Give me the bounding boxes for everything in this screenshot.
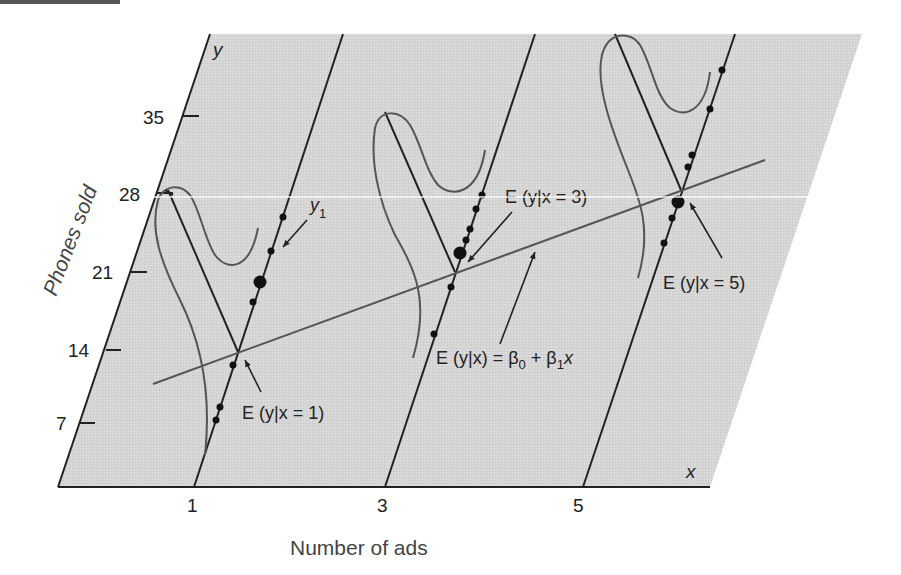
data-point — [448, 284, 455, 291]
y-tick-label-21: 21 — [92, 262, 113, 283]
y-tick-label-28: 28 — [119, 184, 140, 205]
data-point — [230, 362, 237, 369]
data-point — [250, 299, 257, 306]
x-tick-label-3: 3 — [377, 495, 388, 516]
x-tick-label-1: 1 — [187, 495, 198, 516]
data-point — [268, 248, 275, 255]
data-point — [707, 106, 714, 113]
label-ex1: E (y|x = 1) — [242, 403, 324, 423]
y-tick-label-14: 14 — [68, 340, 90, 361]
data-point — [467, 226, 474, 233]
data-point — [685, 164, 692, 171]
mean-point-x1-large — [254, 276, 267, 289]
data-point — [719, 67, 726, 74]
data-point — [431, 331, 438, 338]
y-tick-label-35: 35 — [143, 107, 164, 128]
data-point — [689, 152, 696, 159]
x-tick-label-5: 5 — [573, 495, 584, 516]
label-ex5: E (y|x = 5) — [663, 273, 745, 293]
data-point — [463, 237, 470, 244]
data-point-y1 — [280, 214, 287, 221]
y-tick-label-7: 7 — [56, 413, 67, 434]
data-point — [217, 404, 224, 411]
data-point — [661, 240, 668, 247]
mean-point-x3-large — [454, 247, 467, 260]
x-axis-title: Number of ads — [290, 536, 428, 559]
data-point — [473, 206, 480, 213]
x-axis-letter: x — [685, 461, 697, 482]
y-axis-letter: y — [211, 39, 224, 60]
data-point — [669, 215, 676, 222]
regression-diagram: 7 14 21 28 35 1 3 5 y x Number of ads Ph… — [0, 0, 901, 575]
data-point — [213, 417, 220, 424]
